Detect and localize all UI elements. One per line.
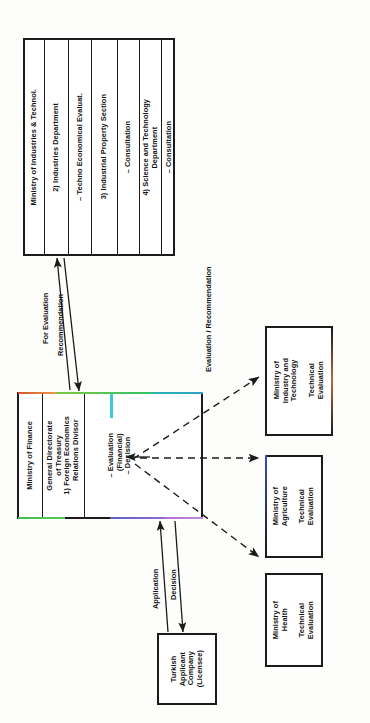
cell-body: Turkish Applicant Company (Licensee) xyxy=(159,635,215,703)
cell-text: Ministry of Industry and Technology Tech… xyxy=(273,358,325,403)
cell-text: Ministry of Health Technical Evaluation xyxy=(272,601,316,639)
cell-text: Turkish Applicant Company (Licensee) xyxy=(170,650,205,687)
arrow-label-application: Application xyxy=(152,553,160,609)
cell-text: – Consultation xyxy=(165,121,174,173)
cell-consultation-1: – Consultation xyxy=(118,40,140,254)
cell-evaluation-decision: – Evaluation (Financial) – Decision xyxy=(85,394,205,517)
cell-general-directorate-treasury: General Directorate of Treasury 1) Forei… xyxy=(43,394,85,517)
cell-text: 4) Science and Technology Department xyxy=(142,99,159,196)
cell-ministry-industries-header: Ministry of Industries & Technol. xyxy=(25,40,45,254)
cell-text: Ministry of Agriculture Technical Evalua… xyxy=(272,486,316,526)
cell-text: Ministry of Industries & Technol. xyxy=(30,89,39,205)
cell-text: General Directorate of Treasury 1) Forei… xyxy=(46,416,81,495)
cell-body: Ministry of Agriculture Technical Evalua… xyxy=(267,457,321,556)
arrow-application xyxy=(160,521,168,632)
cell-body: Ministry of Industry and Technology Tech… xyxy=(267,328,331,434)
cell-text: Ministry of Finance xyxy=(26,421,35,490)
arrow-label-evaluation-recommendation: Evaluation / Recommendation xyxy=(205,250,213,372)
technical-evaluation-box-agriculture: Ministry of Agriculture Technical Evalua… xyxy=(265,455,323,558)
cell-ministry-finance-header: Ministry of Finance xyxy=(19,394,43,517)
turkish-applicant-company-box: Turkish Applicant Company (Licensee) xyxy=(157,633,217,705)
cell-text: 2) Industries Department xyxy=(52,103,61,192)
cell-body: Ministry of Health Technical Evaluation xyxy=(267,575,321,665)
cell-industries-department: 2) Industries Department xyxy=(45,40,69,254)
cell-text: – Evaluation (Financial) – Decision xyxy=(107,433,133,477)
cell-consultation-2: – Consultation xyxy=(162,40,177,254)
technical-evaluation-box-health: Ministry of Health Technical Evaluation xyxy=(265,573,323,667)
cell-techno-economical-evaluation: – Techno Economical Evaluat. xyxy=(69,40,92,254)
diagram-canvas: Ministry of Industries & Technol. 2) Ind… xyxy=(0,0,370,723)
cell-text: – Techno Economical Evaluat. xyxy=(76,93,85,201)
cell-text: 3) Industrial Property Section xyxy=(100,94,109,199)
arrow-label-recommendation: Recommendation xyxy=(57,276,65,356)
technical-evaluation-box-industry-technology: Ministry of Industry and Technology Tech… xyxy=(265,326,333,436)
cell-science-technology-department: 4) Science and Technology Department xyxy=(140,40,162,254)
arrow-label-decision: Decision xyxy=(170,556,178,600)
arrow-label-for-evaluation: For Evaluation xyxy=(42,282,50,344)
ministry-finance-box: Ministry of Finance General Directorate … xyxy=(17,392,203,519)
arrow-recommendation xyxy=(64,258,79,391)
cell-text: – Consultation xyxy=(124,121,133,173)
cell-industrial-property-section: 3) Industrial Property Section xyxy=(92,40,118,254)
ministry-industries-box: Ministry of Industries & Technol. 2) Ind… xyxy=(23,38,175,256)
